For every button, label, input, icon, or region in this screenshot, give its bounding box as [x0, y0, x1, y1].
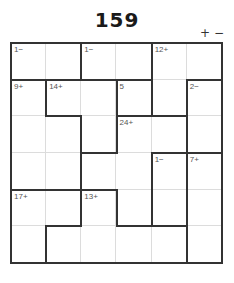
cage-clue: 2−	[190, 82, 199, 91]
cage-border	[116, 115, 153, 117]
zoom-controls: + −	[200, 26, 224, 40]
grid-cell[interactable]	[46, 226, 81, 263]
cage-border	[45, 115, 82, 117]
grid-cell[interactable]	[46, 43, 81, 80]
cage-border	[80, 152, 117, 154]
grid-cell[interactable]	[152, 190, 187, 227]
grid-cell[interactable]	[81, 226, 116, 263]
cage-border	[45, 225, 47, 264]
grid-cell[interactable]	[11, 153, 46, 190]
cage-border	[80, 152, 82, 191]
cage-clue: 12+	[155, 45, 169, 54]
cage-clue: 7+	[190, 155, 199, 164]
cage-border	[80, 189, 82, 228]
grid-cell[interactable]	[11, 116, 46, 153]
cage-border	[80, 42, 82, 81]
cage-clue: 1−	[14, 45, 23, 54]
grid-cell[interactable]	[187, 226, 222, 263]
grid-cell[interactable]	[46, 190, 81, 227]
grid-cell[interactable]	[117, 190, 152, 227]
kenken-grid: 1−1−12+9+14+52−24+1−7+17+13+	[11, 43, 222, 263]
grid-cell[interactable]	[46, 116, 81, 153]
cage-clue: 9+	[14, 82, 23, 91]
cage-border	[116, 115, 118, 154]
cage-border	[186, 79, 223, 81]
grid-cell[interactable]	[81, 116, 116, 153]
zoom-in-button[interactable]: +	[200, 26, 210, 40]
cage-border	[151, 79, 153, 118]
cage-clue: 5	[120, 82, 124, 91]
grid-cell[interactable]	[152, 226, 187, 263]
cage-border	[10, 42, 223, 44]
cage-border	[45, 79, 82, 81]
cage-border	[186, 152, 223, 154]
cage-border	[116, 189, 118, 228]
cage-border	[151, 42, 153, 81]
cage-border	[151, 152, 188, 154]
grid-cell[interactable]	[117, 153, 152, 190]
grid-cell[interactable]	[187, 190, 222, 227]
cage-border	[10, 189, 47, 191]
cage-border	[186, 189, 188, 228]
cage-border	[10, 262, 223, 264]
cage-border	[186, 152, 188, 191]
cage-border	[151, 189, 153, 228]
cage-clue: 14+	[49, 82, 63, 91]
cage-clue: 13+	[84, 192, 98, 201]
cage-clue: 1−	[155, 155, 164, 164]
cage-border	[186, 115, 188, 154]
cage-border	[80, 189, 117, 191]
grid-cell[interactable]	[46, 153, 81, 190]
cage-clue: 24+	[120, 118, 134, 127]
cage-border	[116, 225, 153, 227]
cage-border	[151, 115, 188, 117]
grid-cell[interactable]	[152, 116, 187, 153]
grid-cell[interactable]	[11, 226, 46, 263]
cage-border	[186, 79, 188, 118]
cage-border	[45, 189, 82, 191]
grid-cell[interactable]	[152, 80, 187, 117]
cage-border	[151, 225, 188, 227]
grid-cell[interactable]	[117, 226, 152, 263]
cage-border	[45, 79, 47, 118]
cage-clue: 1−	[84, 45, 93, 54]
cage-border	[45, 225, 82, 227]
grid-cell[interactable]	[81, 153, 116, 190]
zoom-out-button[interactable]: −	[214, 26, 224, 40]
cage-border	[116, 79, 153, 81]
grid-cell[interactable]	[187, 116, 222, 153]
cage-border	[10, 42, 12, 264]
grid-cell[interactable]	[117, 43, 152, 80]
cage-border	[80, 115, 82, 154]
cage-border	[80, 79, 117, 81]
grid-cell[interactable]	[81, 80, 116, 117]
cage-border	[10, 79, 47, 81]
cage-border	[116, 79, 118, 118]
grid-cell[interactable]	[187, 43, 222, 80]
cage-clue: 17+	[14, 192, 28, 201]
cage-border	[186, 225, 188, 264]
cage-border	[151, 152, 153, 191]
